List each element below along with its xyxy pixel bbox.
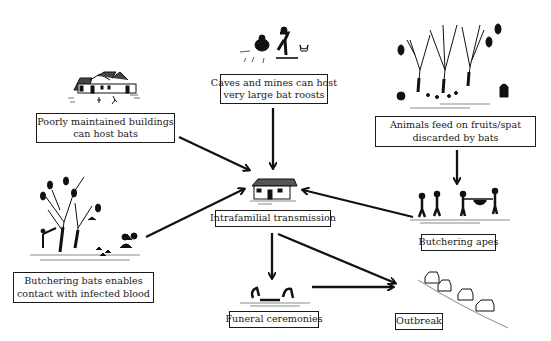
arrow-intrafamilial-to-outbreak [278, 234, 395, 283]
node-butchering-apes-label: Butchering apes [419, 236, 499, 249]
node-funeral-label: Funeral ceremonies [225, 313, 322, 326]
node-caves-line-1: Caves and mines can host [211, 77, 337, 90]
house-illustration-icon [250, 179, 297, 204]
node-intrafamilial-label: Intrafamilial transmission [210, 212, 336, 225]
node-animals: Animals feed on fruits/spat discarded by… [375, 116, 536, 147]
node-buildings-line-1: Poorly maintained buildings [37, 116, 173, 129]
node-outbreak-label: Outbreak [396, 315, 442, 328]
node-butchering-bats: Butchering bats enables contact with inf… [13, 272, 154, 303]
node-buildings: Poorly maintained buildings can host bat… [36, 113, 175, 143]
node-caves-line-2: very large bat roosts [224, 89, 325, 102]
fruit-trees-illustration-icon [397, 24, 508, 108]
bat-hunting-illustration-icon [30, 177, 140, 260]
node-butchering-bats-line-1: Butchering bats enables [24, 275, 142, 288]
miners-illustration-icon [240, 27, 308, 63]
node-animals-line-1: Animals feed on fruits/spat [390, 119, 521, 132]
ape-hunters-illustration-icon [410, 189, 510, 223]
node-buildings-line-2: can host bats [73, 128, 138, 141]
funeral-illustration-icon [240, 288, 310, 306]
node-caves: Caves and mines can host very large bat … [220, 74, 328, 104]
node-butchering-bats-line-2: contact with infected blood [17, 288, 150, 301]
node-butchering-apes: Butchering apes [421, 234, 496, 251]
node-intrafamilial: Intrafamilial transmission [215, 210, 331, 227]
diagram-canvas: Poorly maintained buildings can host bat… [0, 0, 551, 341]
node-funeral: Funeral ceremonies [229, 311, 319, 328]
node-animals-line-2: discarded by bats [412, 132, 498, 145]
arrow-buildings-to-intrafamilial [179, 137, 249, 170]
node-outbreak: Outbreak [395, 313, 443, 330]
houses-illustration-icon [68, 72, 140, 104]
